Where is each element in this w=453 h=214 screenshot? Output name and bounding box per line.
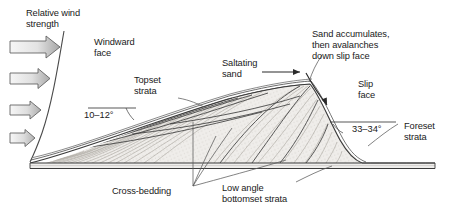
relative-wind-strength-label: Relative wind strength [26, 8, 80, 30]
windward-angle-label: 10–12° [84, 110, 114, 121]
sand-accumulates-label: Sand accumulates, then avalanches down s… [312, 29, 389, 63]
saltation-arrow-icon [262, 69, 300, 75]
dune-body [30, 84, 360, 163]
foreset-strata-label: Foreset strata [404, 121, 435, 143]
topset-strata-label: Topset strata [134, 75, 161, 97]
saltating-sand-label: Saltating sand [222, 58, 257, 80]
bottomset-strata [30, 163, 435, 169]
windward-face-label: Windward face [94, 37, 135, 59]
wind-arrow-2 [10, 69, 50, 89]
slipface-angle-label: 33–34° [352, 124, 382, 135]
slip-face-label: Slip face [358, 79, 375, 101]
cross-bedding-label: Cross-bedding [112, 186, 171, 197]
dune-diagram-figure: Relative wind strength Windward face Top… [0, 0, 453, 214]
wind-arrow-1 [10, 36, 60, 58]
bottomset-strata-label: Low angle bottomset strata [222, 183, 287, 205]
dune-sand-fill [30, 84, 360, 163]
wind-arrow-4 [10, 130, 35, 147]
wind-arrow-3 [10, 101, 41, 119]
